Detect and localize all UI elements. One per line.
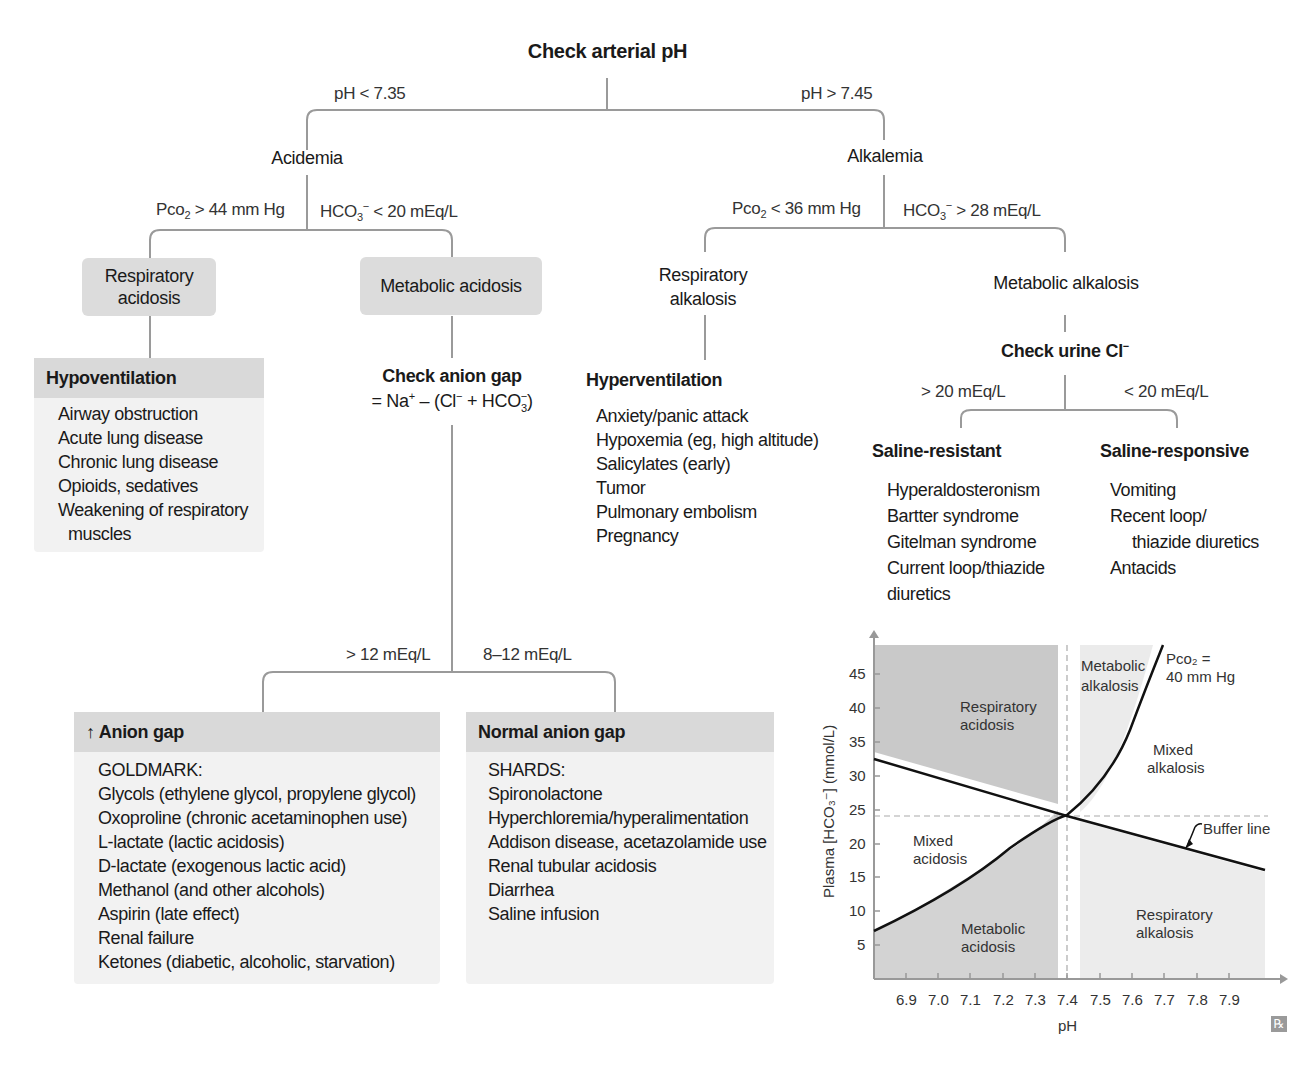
list-item: Opioids, sedatives [58, 474, 264, 498]
x-axis-title: pH [1058, 1017, 1077, 1034]
root-title: Check arterial pH [520, 40, 695, 63]
condition-high-gap: > 12 mEq/L [346, 645, 430, 665]
normal-anion-gap-title: Normal anion gap [466, 712, 774, 752]
list-item: Recent loop/ [1110, 503, 1259, 529]
high-anion-gap-panel: ↑ Anion gap GOLDMARK: Glycols (ethylene … [74, 712, 440, 984]
list-item: Diarrhea [488, 878, 774, 902]
goldmark-list: GOLDMARK: Glycols (ethylene glycol, prop… [74, 752, 440, 974]
branch-label-alkalemia: pH > 7.45 [801, 84, 873, 104]
list-item: Saline infusion [488, 902, 774, 926]
svg-text:acidosis: acidosis [961, 938, 1015, 955]
list-item: Spironolactone [488, 782, 774, 806]
list-item: Weakening of respiratory [58, 498, 264, 522]
list-item: Vomiting [1110, 477, 1259, 503]
urine-chloride-check: Check urine Cl− [990, 340, 1140, 362]
svg-text:7.8: 7.8 [1187, 991, 1208, 1008]
svg-text:7.5: 7.5 [1090, 991, 1111, 1008]
svg-text:Metabolic: Metabolic [1081, 657, 1146, 674]
svg-text:Respiratory: Respiratory [960, 698, 1037, 715]
list-item: L-lactate (lactic acidosis) [98, 830, 440, 854]
list-item: Renal tubular acidosis [488, 854, 774, 878]
respiratory-acidosis-label: Respiratory acidosis [99, 265, 199, 309]
normal-anion-gap-panel: Normal anion gap SHARDS: Spironolactone … [466, 712, 774, 984]
list-item: Hyperchloremia/hyperalimentation [488, 806, 774, 830]
acid-base-chart: Respiratory acidosis Metabolic alkalosis… [810, 620, 1311, 1070]
list-item: diuretics [887, 581, 1045, 607]
svg-text:6.9: 6.9 [896, 991, 917, 1008]
svg-text:7.3: 7.3 [1025, 991, 1046, 1008]
high-anion-gap-title: ↑ Anion gap [74, 712, 440, 752]
list-item: Tumor [596, 476, 819, 500]
svg-text:Buffer line: Buffer line [1203, 820, 1270, 837]
svg-text:Mixed: Mixed [913, 832, 953, 849]
svg-text:alkalosis: alkalosis [1136, 924, 1194, 941]
svg-text:Respiratory: Respiratory [1136, 906, 1213, 923]
svg-text:Mixed: Mixed [1153, 741, 1193, 758]
svg-text:40: 40 [849, 699, 866, 716]
svg-text:Pco₂ =: Pco₂ = [1166, 650, 1211, 667]
respiratory-acidosis-box: Respiratory acidosis [82, 258, 216, 316]
list-item: thiazide diuretics [1110, 529, 1259, 555]
hyperventilation-list: Anxiety/panic attack Hypoxemia (eg, high… [596, 404, 819, 548]
svg-text:40 mm Hg: 40 mm Hg [1166, 668, 1235, 685]
list-item: Anxiety/panic attack [596, 404, 819, 428]
hypoventilation-panel: Hypoventilation Airway obstruction Acute… [34, 358, 264, 552]
condition-hco3-high: HCO3− > 28 mEq/L [903, 199, 1041, 222]
acidemia-node: Acidemia [255, 148, 359, 169]
condition-normal-gap: 8–12 mEq/L [483, 645, 572, 665]
list-item: Salicylates (early) [596, 452, 819, 476]
svg-text:7.2: 7.2 [993, 991, 1014, 1008]
list-item: D-lactate (exogenous lactic acid) [98, 854, 440, 878]
condition-hco3-low: HCO3− < 20 mEq/L [320, 200, 458, 223]
svg-text:7.7: 7.7 [1154, 991, 1175, 1008]
alkalemia-node: Alkalemia [834, 146, 936, 167]
hypoventilation-list: Airway obstruction Acute lung disease Ch… [34, 398, 264, 546]
svg-text:Metabolic: Metabolic [961, 920, 1026, 937]
svg-text:7.9: 7.9 [1219, 991, 1240, 1008]
svg-text:acidosis: acidosis [913, 850, 967, 867]
hypoventilation-title: Hypoventilation [34, 358, 264, 398]
saline-resistant-title: Saline-resistant [872, 441, 1001, 462]
metabolic-acidosis-label: Metabolic acidosis [380, 275, 522, 297]
list-item: Antacids [1110, 555, 1259, 581]
list-item: Gitelman syndrome [887, 529, 1045, 555]
condition-pco2-high: Pco2 > 44 mm Hg [156, 200, 285, 221]
svg-text:10: 10 [849, 902, 866, 919]
condition-urine-high: > 20 mEq/L [921, 382, 1005, 402]
svg-text:7.4: 7.4 [1057, 991, 1078, 1008]
svg-text:7.1: 7.1 [960, 991, 981, 1008]
svg-text:acidosis: acidosis [960, 716, 1014, 733]
saline-responsive-list: Vomiting Recent loop/ thiazide diuretics… [1110, 477, 1259, 581]
list-item: Glycols (ethylene glycol, propylene glyc… [98, 782, 440, 806]
rx-logo-icon: ℞ [1271, 1016, 1287, 1032]
list-item: Airway obstruction [58, 402, 264, 426]
list-item: Pregnancy [596, 524, 819, 548]
list-item: Current loop/thiazide [887, 555, 1045, 581]
list-item: Chronic lung disease [58, 450, 264, 474]
saline-responsive-title: Saline-responsive [1100, 441, 1249, 462]
svg-text:45: 45 [849, 665, 866, 682]
anion-gap-formula: = Na+ – (Cl− + HCO3−) [352, 390, 552, 414]
svg-text:20: 20 [849, 835, 866, 852]
svg-text:alkalosis: alkalosis [1147, 759, 1205, 776]
list-item: Oxoproline (chronic acetaminophen use) [98, 806, 440, 830]
svg-text:7.0: 7.0 [928, 991, 949, 1008]
list-item: Ketones (diabetic, alcoholic, starvation… [98, 950, 440, 974]
metabolic-alkalosis-node: Metabolic alkalosis [978, 273, 1154, 294]
list-item: Acute lung disease [58, 426, 264, 450]
condition-pco2-low: Pco2 < 36 mm Hg [732, 199, 861, 220]
anion-gap-check-title: Check anion gap [352, 366, 552, 387]
list-item: muscles [58, 522, 264, 546]
svg-text:30: 30 [849, 767, 866, 784]
list-item: Aspirin (late effect) [98, 902, 440, 926]
svg-text:25: 25 [849, 801, 866, 818]
metabolic-acidosis-box: Metabolic acidosis [360, 257, 542, 315]
mnemonic-label: SHARDS: [488, 758, 774, 782]
list-item: Hypoxemia (eg, high altitude) [596, 428, 819, 452]
list-item: Pulmonary embolism [596, 500, 819, 524]
list-item: Renal failure [98, 926, 440, 950]
svg-text:7.6: 7.6 [1122, 991, 1143, 1008]
saline-resistant-list: Hyperaldosteronism Bartter syndrome Gite… [887, 477, 1045, 607]
list-item: Bartter syndrome [887, 503, 1045, 529]
respiratory-alkalosis-node: Respiratory alkalosis [643, 263, 763, 311]
